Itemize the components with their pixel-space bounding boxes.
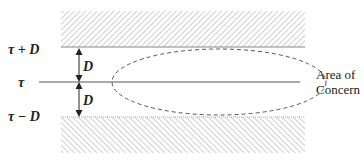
area-of-concern-label-line1: Area of	[316, 67, 356, 82]
lower-distance-label: D	[82, 93, 93, 108]
lower-hatched-region	[61, 117, 305, 153]
upper-distance-arrow	[76, 48, 83, 82]
upper-distance-label: D	[82, 59, 93, 74]
upper-hatched-region	[61, 11, 305, 47]
threshold-label: τ	[18, 75, 25, 90]
lower-distance-arrow	[76, 82, 83, 117]
lower-bound-label: τ − D	[8, 109, 40, 124]
diagram-canvas: τ + D τ τ − D D D Area of Concern	[0, 0, 364, 160]
area-of-concern-label-line2: Concern	[316, 82, 361, 97]
upper-bound-label: τ + D	[8, 42, 39, 57]
